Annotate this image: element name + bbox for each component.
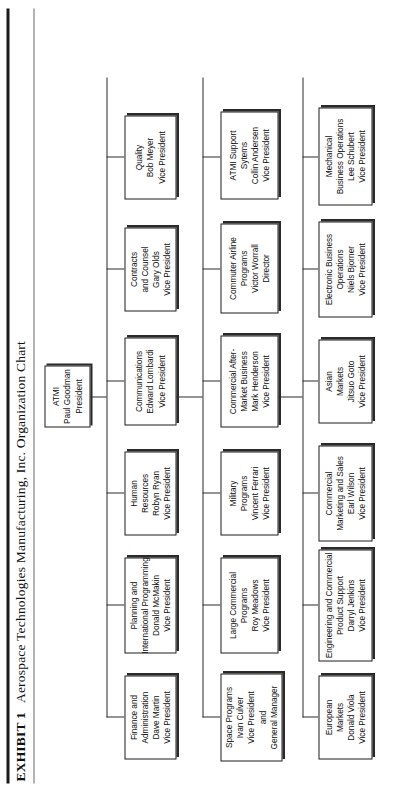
org-node-european-markets-org1: European [323, 699, 334, 735]
org-node-commercial-marketing-sales-org1: Commercial [323, 471, 334, 515]
org-node-quality[interactable]: Quality Bob Meyer Vice President [124, 115, 176, 199]
org-node-commercial-aftermarket-org1: Commercial After- [227, 348, 238, 414]
org-node-electronic-business-operations-org2: Operations [334, 249, 345, 289]
connector-row2-drop-4 [202, 380, 220, 381]
connector-row2-drop-2 [202, 604, 220, 605]
org-node-engineering-product-support[interactable]: Engineering and Commercial Product Suppo… [318, 549, 372, 661]
org-node-commuter-airline[interactable]: Commuter Airline Programs Victor Worrall… [220, 223, 278, 313]
org-node-commercial-aftermarket-name: Mark Henderson [249, 351, 260, 412]
org-node-communications[interactable]: Communications Edward Lombardi Vice Pres… [124, 337, 176, 425]
org-node-electronic-business-operations[interactable]: Electronic Business Operations Niels Bjo… [318, 221, 372, 317]
connector-row3-drop-4 [302, 380, 318, 381]
connector-row1-drop-4 [106, 380, 124, 381]
org-node-european-markets-org2: Markets [334, 702, 345, 731]
title-rule-top [6, 8, 9, 783]
org-node-finance-org2: Administration [139, 691, 150, 743]
connector-row1-spine [106, 77, 107, 717]
connector-row3-trunk [278, 396, 302, 397]
org-node-planning-role: Vice President [161, 579, 172, 632]
org-node-human-resources-role: Vice President [161, 467, 172, 520]
org-node-atmi-support-name: Collin Andersen [249, 126, 260, 183]
org-node-commuter-airline-name: Victor Worrall [249, 244, 260, 293]
org-node-commuter-airline-org1: Commuter Airline [227, 237, 238, 300]
org-node-asian-markets-name: Jitsuo Goto [345, 360, 356, 401]
connector-row1-drop-2 [106, 604, 124, 605]
org-node-space-programs-name: Ivan Culver [234, 696, 245, 737]
org-node-mechanical-business-operations[interactable]: Mechanical Business Operations Lee Schub… [318, 107, 372, 205]
connector-row2-drop-1 [202, 716, 220, 717]
org-node-planning-name: Donald McMakin [150, 574, 161, 635]
exhibit-page: EXHIBIT 1Aerospace Technologies Manufact… [0, 0, 399, 791]
org-node-planning[interactable]: Planning and International Programming D… [124, 557, 176, 653]
org-node-root-org: ATMI [50, 387, 61, 406]
org-node-atmi-support[interactable]: ATMI Support Sytems Collin Andersen Vice… [220, 111, 278, 199]
org-chart: ATMI Paul Goodman President Finance and … [36, 8, 392, 783]
connector-row1-drop-5 [106, 268, 124, 269]
org-node-asian-markets-org2: Markets [334, 366, 345, 395]
connector-row1-drop-6 [106, 156, 124, 157]
connector-row3-drop-5 [302, 268, 318, 269]
org-node-asian-markets-org1: Asian [323, 371, 334, 392]
exhibit-label: EXHIBIT 1 [12, 712, 27, 781]
org-node-commuter-airline-role: Director [260, 254, 271, 283]
org-node-space-programs-org1: Space Programs [223, 686, 234, 747]
org-node-large-commercial-role: Vice President [260, 579, 271, 632]
org-node-military-programs-name: Vincent Ferrari [249, 466, 260, 520]
org-node-commercial-aftermarket[interactable]: Commercial After- Market Business Mark H… [220, 335, 278, 427]
org-node-engineering-product-support-org2: Product Support [334, 575, 345, 634]
org-node-quality-org1: Quality [133, 144, 144, 169]
org-node-human-resources-org1: Human [128, 480, 139, 507]
org-node-asian-markets-role: Vice President [356, 355, 367, 408]
org-node-communications-role: Vice President [156, 355, 167, 408]
org-node-commercial-marketing-sales-name: Earl Wilson [345, 472, 356, 513]
connector-row2-drop-6 [202, 156, 220, 157]
org-node-contracts-role: Vice President [161, 243, 172, 296]
connector-row3-drop-6 [302, 156, 318, 157]
exhibit-sheet: EXHIBIT 1Aerospace Technologies Manufact… [6, 8, 392, 783]
org-node-atmi-support-org2: Sytems [238, 141, 249, 168]
org-node-finance[interactable]: Finance and Administration Dave Martin V… [124, 675, 176, 759]
org-node-military-programs[interactable]: Military Programs Vincent Ferrari Vice P… [220, 451, 278, 535]
org-node-contracts[interactable]: Contracts and Counsel Gary Olds Vice Pre… [124, 227, 176, 311]
org-node-contracts-org1: Contracts [128, 251, 139, 286]
org-node-commercial-marketing-sales[interactable]: Commercial Marketing and Sales Earl Wils… [318, 445, 372, 541]
org-node-space-programs-role3: General Manager [268, 685, 279, 749]
org-node-european-markets[interactable]: European Markets Donald Viola Vice Presi… [318, 675, 372, 759]
connector-row3-spine [302, 77, 303, 717]
org-node-human-resources-org2: Resources [139, 473, 150, 512]
org-node-european-markets-role: Vice President [356, 691, 367, 744]
org-node-commercial-marketing-sales-org2: Marketing and Sales [334, 456, 345, 531]
org-node-military-programs-org1: Military [227, 480, 238, 506]
connector-row2-drop-3 [202, 492, 220, 493]
org-node-asian-markets[interactable]: Asian Markets Jitsuo Goto Vice President [318, 339, 372, 423]
connector-row3-drop-2 [302, 604, 318, 605]
org-node-atmi-support-org1: ATMI Support [227, 130, 238, 180]
connector-root-trunk [90, 396, 106, 397]
connector-row1-drop-1 [106, 716, 124, 717]
org-node-space-programs-role: Vice President [245, 691, 256, 744]
org-node-military-programs-role: Vice President [260, 467, 271, 520]
org-node-mechanical-business-operations-name: Lee Schubert [345, 132, 356, 181]
org-node-commercial-aftermarket-role: Vice President [260, 355, 271, 408]
org-node-commuter-airline-org2: Programs [238, 250, 249, 286]
org-node-communications-name: Edward Lombardi [144, 349, 155, 413]
org-node-military-programs-org2: Programs [238, 475, 249, 511]
org-node-commercial-marketing-sales-role: Vice President [356, 467, 367, 520]
title-rule-bottom [33, 8, 34, 783]
org-node-engineering-product-support-role: Vice President [356, 579, 367, 632]
org-node-electronic-business-operations-org1: Electronic Business [323, 233, 334, 304]
org-node-root[interactable]: ATMI Paul Goodman President [44, 365, 90, 427]
org-node-space-programs[interactable]: Space Programs Ivan Culver Vice Presiden… [220, 673, 282, 761]
connector-row3-drop-1 [302, 716, 318, 717]
org-node-finance-role: Vice President [161, 691, 172, 744]
connector-row2-spine [202, 77, 203, 717]
org-node-commercial-aftermarket-org2: Market Business [238, 351, 249, 412]
org-node-communications-org1: Communications [133, 350, 144, 411]
org-node-european-markets-name: Donald Viola [345, 694, 356, 740]
org-node-root-role: President [73, 379, 84, 414]
org-node-mechanical-business-operations-org1: Mechanical [323, 135, 334, 176]
org-node-human-resources[interactable]: Human Resources Robyn Ryan Vice Presiden… [124, 451, 176, 535]
org-node-mechanical-business-operations-org2: Business Operations [334, 118, 345, 194]
org-node-large-commercial[interactable]: Large Commercial Programs Roy Meadows Vi… [220, 557, 278, 653]
org-node-engineering-product-support-org1: Engineering and Commercial [323, 552, 334, 658]
